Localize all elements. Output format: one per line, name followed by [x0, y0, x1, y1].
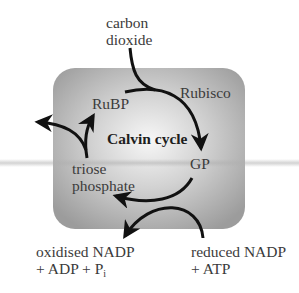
- scan-streak: [0, 159, 299, 167]
- label-rubp: RuBP: [92, 95, 129, 112]
- label-pi-subscript: i: [103, 268, 106, 279]
- label-dioxide: dioxide: [106, 31, 153, 48]
- label-gp: GP: [190, 155, 210, 172]
- label-carbon: carbon: [106, 14, 148, 31]
- label-atp: + ATP: [191, 260, 230, 277]
- label-triose: triose: [72, 160, 106, 177]
- label-phosphate: phosphate: [72, 177, 135, 194]
- label-reduced-nadp: reduced NADP: [191, 243, 286, 260]
- label-adp-prefix: + ADP + P: [36, 260, 103, 277]
- label-oxidised-nadp: oxidised NADP: [36, 243, 135, 260]
- label-adp-pi: + ADP + Pi: [36, 260, 106, 282]
- label-rubisco: Rubisco: [180, 84, 231, 101]
- label-calvin-cycle: Calvin cycle: [107, 130, 188, 147]
- calvin-cycle-diagram: carbon dioxide Rubisco RuBP Calvin cycle…: [0, 0, 299, 293]
